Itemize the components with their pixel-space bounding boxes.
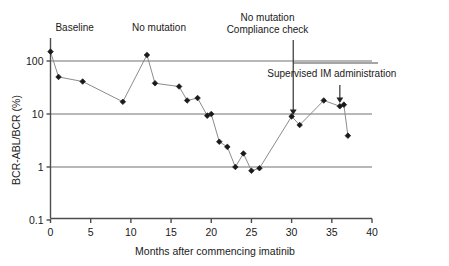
y-axis-title: BCR-ABL/BCR (%) [10, 95, 22, 185]
annotation-supervised-im: Supervised IM administration [267, 68, 396, 79]
annotation-baseline: Baseline [55, 22, 94, 33]
bcr-abl-log-line-chart: 1001010.1 0510152025303540 BaselineNo mu… [0, 0, 449, 266]
x-tick-label-10: 10 [125, 226, 137, 238]
chart-background [0, 0, 449, 266]
y-tick-label-100: 100 [26, 55, 44, 67]
chart-figure: 1001010.1 0510152025303540 BaselineNo mu… [0, 0, 449, 266]
x-axis-title: Months after commencing imatinib [135, 245, 295, 257]
x-tick-label-35: 35 [326, 226, 338, 238]
x-tick-label-5: 5 [88, 226, 94, 238]
y-tick-label-10: 10 [32, 108, 44, 120]
x-tick-label-30: 30 [286, 226, 298, 238]
y-tick-label-1: 1 [38, 161, 44, 173]
x-tick-label-20: 20 [205, 226, 217, 238]
annotation-no-mutation-compliance-line2: Compliance check [227, 24, 310, 35]
x-tick-label-15: 15 [165, 226, 177, 238]
y-tick-label-0.1: 0.1 [29, 214, 44, 226]
x-tick-label-0: 0 [48, 226, 54, 238]
annotation-no-mutation: No mutation [132, 22, 186, 33]
annotation-no-mutation-compliance-line1: No mutation [241, 12, 295, 23]
x-tick-label-25: 25 [246, 226, 258, 238]
x-tick-label-40: 40 [366, 226, 378, 238]
